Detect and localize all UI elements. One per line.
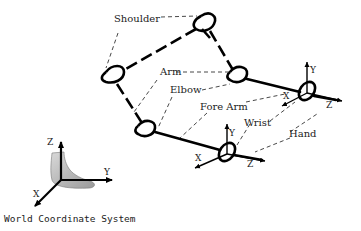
forearm-link-right [247, 79, 300, 92]
world-coordinate-caption: World Coordinate System [4, 213, 136, 224]
label-wrist: Wrist [244, 117, 271, 128]
upper-arm-link-left [117, 84, 142, 123]
upper-arm-link-right [210, 31, 233, 70]
hand-frame-right: Y X Z [282, 62, 342, 110]
axis-label-y: Y [228, 128, 236, 138]
forearm-link-left [155, 132, 220, 150]
elbow-joint-upper [227, 67, 247, 82]
shoulder-link [124, 29, 196, 70]
label-shoulder: Shoulder [114, 13, 160, 24]
axis-label-y: Y [309, 65, 317, 75]
label-arm: Arm [159, 66, 182, 77]
elbow-joint-lower [135, 121, 155, 136]
label-hand: Hand [289, 128, 317, 139]
leader-lines [106, 16, 317, 152]
axis-label-z: Z [247, 159, 253, 169]
arm-kinematics-diagram: Y X Z Y X Z Shoulder Arm Elbow [0, 0, 361, 231]
axis-label-z: Z [47, 137, 53, 147]
axis-label-z: Z [326, 100, 332, 110]
label-elbow: Elbow [170, 84, 202, 95]
axis-label-x: X [33, 189, 40, 199]
shoulder-joint-left [102, 66, 124, 83]
axis-label-x: X [283, 91, 290, 101]
axis-label-y: Y [103, 167, 111, 177]
axis-label-x: X [195, 153, 202, 163]
world-coordinate-system: Z Y X World Coordinate System [4, 137, 136, 224]
label-fore-arm: Fore Arm [200, 101, 248, 112]
